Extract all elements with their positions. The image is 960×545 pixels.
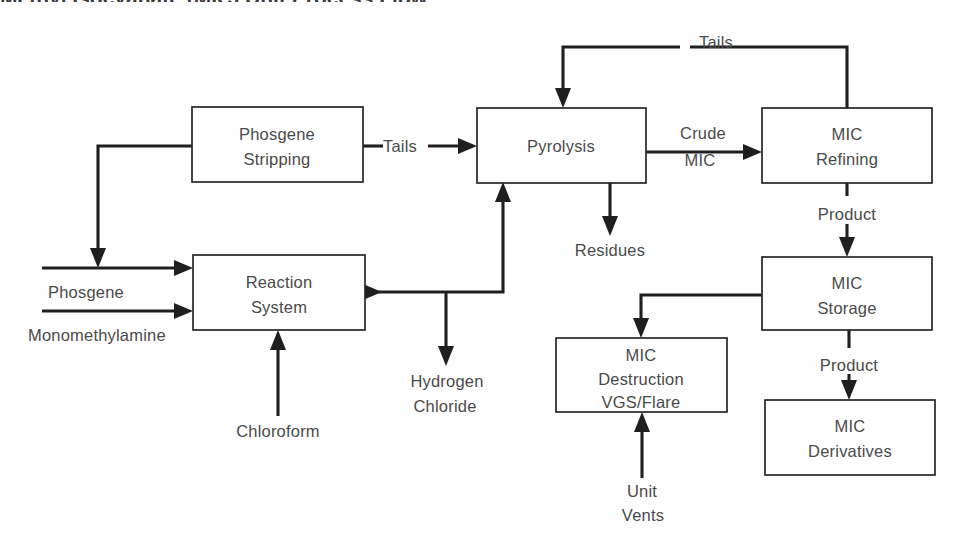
flow-diagram-canvas: Phosgene Stripping Pyrolysis MIC Refinin… bbox=[0, 0, 960, 545]
box-label-mic-refining-line1: MIC bbox=[832, 125, 863, 143]
box-label-reaction-system-line2: System bbox=[251, 298, 307, 316]
connector-storage-to-destruction bbox=[633, 295, 762, 338]
stream-label-residues: Residues bbox=[575, 241, 645, 259]
process-box-reaction-system[interactable]: Reaction System bbox=[193, 255, 365, 330]
box-label-pyrolysis-line1: Pyrolysis bbox=[527, 137, 595, 155]
connector-reaction-to-stripping bbox=[363, 182, 511, 300]
stream-label-product-refining: Product bbox=[818, 205, 876, 223]
process-box-phosgene-stripping[interactable]: Phosgene Stripping bbox=[192, 107, 363, 182]
connector-residues-outlet bbox=[602, 183, 618, 236]
box-label-mic-destruction-line3: VGS/Flare bbox=[602, 393, 681, 411]
process-box-mic-derivatives[interactable]: MIC Derivatives bbox=[765, 400, 935, 475]
stream-label-product-storage: Product bbox=[820, 356, 878, 374]
stream-label-crude-mic-line1: Crude bbox=[680, 124, 726, 142]
process-flow-diagram: Methyl Isocyanate (MIC) Unit Process Flo… bbox=[0, 0, 960, 545]
box-label-mic-derivatives-line1: MIC bbox=[835, 417, 866, 435]
connector-tails-recycle-loop bbox=[555, 47, 847, 108]
process-box-pyrolysis[interactable]: Pyrolysis bbox=[477, 108, 646, 183]
stream-label-tails-recycle: Tails bbox=[699, 33, 733, 51]
stream-label-hydrogen-chloride-line2: Chloride bbox=[413, 397, 476, 415]
box-label-mic-storage-line1: MIC bbox=[832, 274, 863, 292]
connector-monomethylamine-inlet bbox=[42, 303, 193, 319]
process-box-mic-destruction[interactable]: MIC Destruction VGS/Flare bbox=[556, 338, 727, 412]
connector-phosgene-inlet bbox=[42, 260, 193, 276]
box-label-mic-refining-line2: Refining bbox=[816, 150, 878, 168]
process-box-mic-storage[interactable]: MIC Storage bbox=[762, 257, 932, 330]
connector-stripping-to-pyrolysis bbox=[363, 138, 477, 154]
stream-label-chloroform-feed: Chloroform bbox=[236, 422, 320, 440]
box-label-mic-derivatives-line2: Derivatives bbox=[808, 442, 892, 460]
box-label-mic-destruction-line1: MIC bbox=[626, 346, 657, 364]
box-label-phosgene-stripping-line2: Stripping bbox=[244, 150, 311, 168]
process-box-mic-refining[interactable]: MIC Refining bbox=[762, 108, 932, 183]
connector-phosgene-recycle bbox=[90, 146, 192, 268]
connector-unit-vents-inlet bbox=[634, 412, 650, 478]
connector-chloroform-inlet bbox=[270, 330, 286, 416]
box-label-phosgene-stripping-line1: Phosgene bbox=[239, 125, 315, 143]
box-label-mic-storage-line2: Storage bbox=[817, 299, 876, 317]
box-label-reaction-system-line1: Reaction bbox=[246, 273, 313, 291]
stream-label-unit-vents-line1: Unit bbox=[627, 482, 657, 500]
stream-label-monomethylamine-feed: Monomethylamine bbox=[28, 326, 166, 344]
stream-label-crude-mic-line2: MIC bbox=[685, 151, 716, 169]
connector-hydrogen-chloride bbox=[438, 292, 454, 366]
stream-label-hydrogen-chloride-line1: Hydrogen bbox=[410, 372, 483, 390]
stream-label-tails-stripping: Tails bbox=[383, 137, 417, 155]
stream-label-unit-vents-line2: Vents bbox=[622, 506, 664, 524]
box-label-mic-destruction-line2: Destruction bbox=[598, 370, 684, 388]
stream-label-phosgene-feed: Phosgene bbox=[48, 283, 124, 301]
